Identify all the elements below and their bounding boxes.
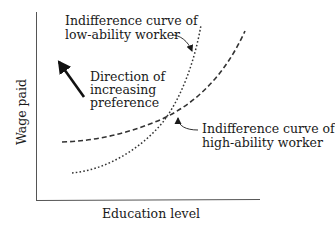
high-ability-label: Indifference curve of high-ability worke… (178, 118, 335, 150)
preference-annotation: Direction of increasing preference (59, 62, 166, 110)
x-axis (36, 200, 260, 201)
x-axis-label: Education level (102, 206, 200, 221)
preference-label-line-3: preference (90, 95, 159, 110)
low-ability-label: Indifference curve of low-ability worker (65, 13, 199, 51)
high-ability-pointer-arrow (178, 118, 198, 130)
low-ability-label-line-2: low-ability worker (65, 27, 180, 42)
preference-direction-arrow-icon (59, 62, 84, 97)
indifference-curve-diagram: Wage paid Education level Indifference c… (0, 0, 335, 225)
y-axis-label: Wage paid (14, 79, 29, 145)
high-ability-label-line-2: high-ability worker (202, 135, 323, 150)
low-ability-label-line-1: Indifference curve of (65, 13, 199, 28)
high-ability-label-line-1: Indifference curve of (202, 121, 335, 136)
